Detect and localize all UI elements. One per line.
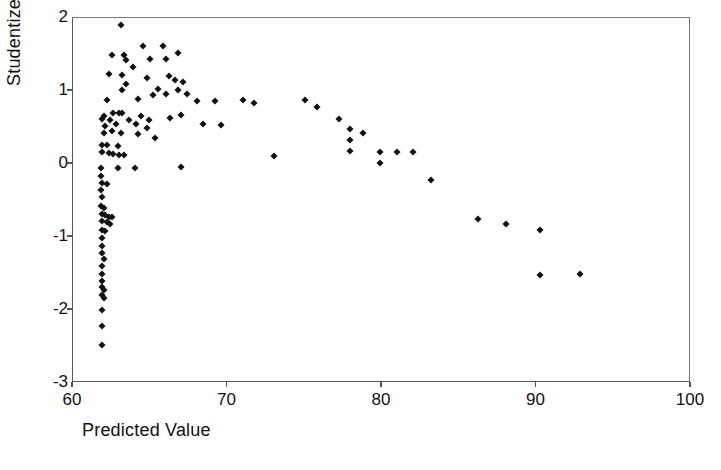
scatter-chart: Studentized Residual 210-1-2-3 607080901… [0, 0, 721, 470]
x-tick-label: 70 [197, 391, 257, 408]
x-tick-mark [226, 382, 228, 387]
x-axis-ticks: 60708090100 [0, 0, 721, 420]
x-tick-label: 80 [351, 391, 411, 408]
x-tick-mark [535, 382, 537, 387]
x-tick-mark [689, 382, 691, 387]
x-tick-label: 100 [660, 391, 720, 408]
x-tick-mark [380, 382, 382, 387]
x-tick-mark [71, 382, 73, 387]
x-tick-label: 60 [42, 391, 102, 408]
x-axis-title: Predicted Value [82, 420, 211, 441]
x-tick-label: 90 [506, 391, 566, 408]
